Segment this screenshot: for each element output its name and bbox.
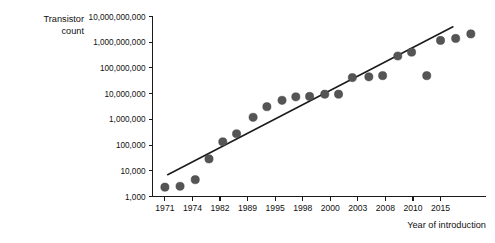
y-axis-title-line2: count <box>62 26 85 36</box>
x-tick-label: 1989 <box>238 203 257 213</box>
data-point <box>306 92 314 100</box>
x-tick-label: 2000 <box>321 203 340 213</box>
y-tick-label: 100,000,000 <box>100 64 146 73</box>
data-point <box>334 90 342 98</box>
data-point <box>452 34 460 42</box>
x-tick-label: 2010 <box>403 203 422 213</box>
data-point <box>278 96 286 104</box>
data-point <box>407 48 415 56</box>
data-point <box>436 36 444 44</box>
data-point <box>467 30 475 38</box>
data-point <box>348 74 356 82</box>
x-tick-label: 2015 <box>431 203 450 213</box>
data-point <box>292 93 300 101</box>
y-tick-label: 10,000,000,000 <box>89 13 146 22</box>
data-point <box>379 72 387 80</box>
x-tick-label: 1995 <box>266 203 285 213</box>
data-point <box>365 73 373 81</box>
y-tick-label: 1,000 <box>125 193 146 202</box>
data-point <box>161 183 169 191</box>
y-tick-label: 1,000,000 <box>109 115 146 124</box>
x-axis-title: Year of introduction <box>407 220 486 230</box>
y-axis-title-line1: Transistor <box>44 14 85 24</box>
y-tick-label: 100,000 <box>116 141 146 150</box>
y-tick-label: 1,000,000,000 <box>93 38 146 47</box>
x-tick-label: 1998 <box>293 203 312 213</box>
data-point <box>423 72 431 80</box>
x-tick-label: 2003 <box>348 203 367 213</box>
data-point <box>394 52 402 60</box>
x-tick-label: 2008 <box>376 203 395 213</box>
data-point <box>232 130 240 138</box>
transistor-count-scatter-chart: 1,00010,000100,0001,000,00010,000,000100… <box>0 0 495 243</box>
data-point <box>176 182 184 190</box>
data-point <box>249 113 257 121</box>
x-tick-label: 1974 <box>183 203 202 213</box>
y-tick-label: 10,000,000 <box>105 90 146 99</box>
data-point <box>205 155 213 163</box>
data-point <box>321 90 329 98</box>
x-tick-label: 1971 <box>155 203 174 213</box>
x-tick-label: 1982 <box>210 203 229 213</box>
y-tick-label: 10,000 <box>120 167 145 176</box>
data-point <box>263 103 271 111</box>
data-point <box>191 176 199 184</box>
data-point <box>219 138 227 146</box>
chart-page: 1,00010,000100,0001,000,00010,000,000100… <box>0 0 495 243</box>
